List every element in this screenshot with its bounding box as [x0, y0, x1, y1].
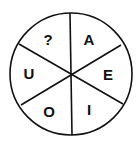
segment-label-u: U: [24, 65, 35, 82]
segment-label-e: E: [103, 66, 113, 83]
segment-label-a: A: [84, 31, 95, 48]
vowel-wheel-diagram: ? A E I O U: [0, 0, 136, 142]
segment-label-i: I: [87, 101, 91, 118]
segment-label-o: O: [43, 103, 55, 120]
segment-label-question: ?: [43, 31, 52, 48]
